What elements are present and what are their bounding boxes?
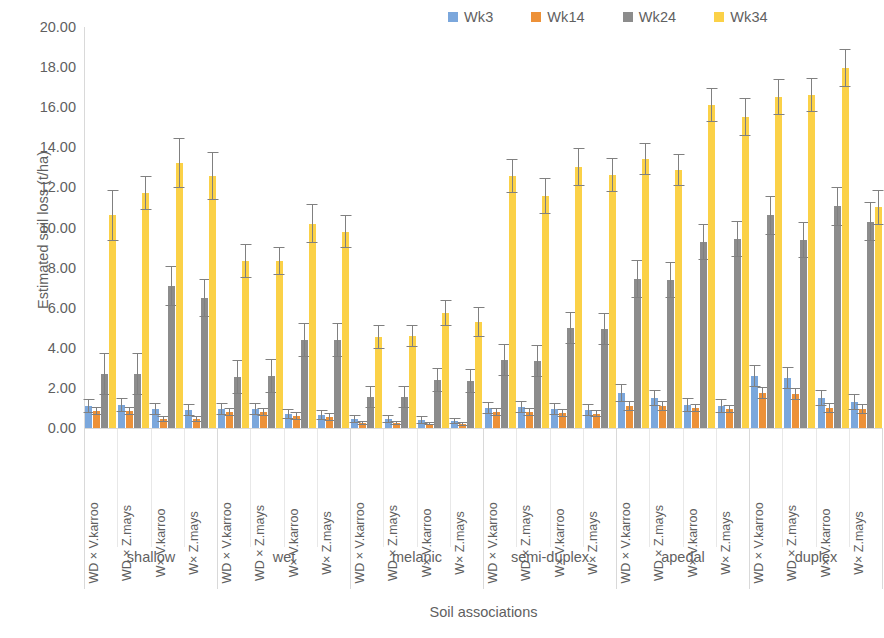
bar-wk34[interactable] [609,175,616,428]
bar-wk34[interactable] [342,232,349,428]
bar-wk34[interactable] [142,193,149,428]
bar-wk24[interactable] [734,239,741,428]
bar-wk3[interactable] [285,414,292,428]
bar-wk14[interactable] [792,394,799,428]
bar-wk24[interactable] [700,242,707,428]
bar-wk3[interactable] [318,415,325,428]
bar-wk3[interactable] [684,405,691,428]
bar-wk3[interactable] [618,393,625,428]
bar-wk34[interactable] [875,207,882,428]
bar-wk24[interactable] [367,397,374,428]
bar-wk3[interactable] [751,376,758,428]
bar-wk14[interactable] [359,423,366,428]
bar-wk3[interactable] [451,421,458,428]
bar-wk14[interactable] [193,419,200,428]
bar-wk3[interactable] [152,409,159,428]
bar-wk3[interactable] [85,406,92,428]
bar-wk3[interactable] [185,410,192,428]
bar-wk24[interactable] [601,329,608,428]
bar-wk24[interactable] [834,206,841,428]
legend-item-wk24[interactable]: Wk24 [623,9,676,25]
bar-wk34[interactable] [642,159,649,428]
bar-wk34[interactable] [309,224,316,429]
bar-wk34[interactable] [409,336,416,428]
bar-wk24[interactable] [101,374,108,428]
bar-wk34[interactable] [575,167,582,428]
bar-wk24[interactable] [501,360,508,428]
bar-wk14[interactable] [293,416,300,428]
bar-wk24[interactable] [467,381,474,428]
bar-wk24[interactable] [268,376,275,428]
bar-wk24[interactable] [767,215,774,428]
bar-wk14[interactable] [126,411,133,428]
bar-wk14[interactable] [593,414,600,428]
bar-wk14[interactable] [426,424,433,428]
bar-wk3[interactable] [518,407,525,428]
bar-wk14[interactable] [93,411,100,428]
bar-wk3[interactable] [485,408,492,428]
bar-wk24[interactable] [134,374,141,428]
bar-wk3[interactable] [718,406,725,428]
bar-wk24[interactable] [334,340,341,428]
bar-wk24[interactable] [168,286,175,428]
bar-wk14[interactable] [659,406,666,428]
bar-wk34[interactable] [542,196,549,428]
bar-wk3[interactable] [418,420,425,428]
bar-wk3[interactable] [385,419,392,428]
bar-wk14[interactable] [459,424,466,428]
bar-wk3[interactable] [851,402,858,428]
bar-wk3[interactable] [551,409,558,428]
bar-wk14[interactable] [260,412,267,428]
bar-wk24[interactable] [800,240,807,428]
bar-wk34[interactable] [675,170,682,428]
bar-wk24[interactable] [667,280,674,428]
bar-wk34[interactable] [742,117,749,428]
bar-wk34[interactable] [176,163,183,428]
bar-wk14[interactable] [559,413,566,428]
bar-wk34[interactable] [775,97,782,428]
legend-item-wk14[interactable]: Wk14 [531,9,584,25]
bar-wk34[interactable] [242,261,249,428]
bar-wk14[interactable] [226,412,233,428]
bar-wk3[interactable] [784,378,791,428]
bar-wk24[interactable] [634,279,641,428]
bar-wk14[interactable] [859,409,866,428]
bar-wk3[interactable] [651,398,658,428]
bar-wk34[interactable] [442,313,449,428]
bar-wk34[interactable] [842,68,849,428]
bar-wk34[interactable] [209,176,216,428]
bar-wk24[interactable] [234,377,241,428]
bar-wk34[interactable] [708,105,715,428]
bar-wk34[interactable] [109,215,116,428]
bar-wk14[interactable] [393,423,400,428]
bar-wk24[interactable] [867,222,874,429]
bar-wk34[interactable] [276,261,283,428]
bar-wk3[interactable] [218,409,225,428]
bar-wk34[interactable] [509,176,516,428]
bar-wk34[interactable] [375,337,382,428]
bar-wk3[interactable] [252,409,259,428]
legend-item-wk3[interactable]: Wk3 [448,9,493,25]
bar-wk24[interactable] [301,340,308,428]
bar-wk14[interactable] [160,419,167,428]
bar-wk14[interactable] [759,393,766,428]
bar-wk24[interactable] [201,298,208,428]
bar-wk3[interactable] [118,405,125,428]
bar-wk3[interactable] [351,419,358,428]
legend-item-wk34[interactable]: Wk34 [714,9,767,25]
bar-wk3[interactable] [818,398,825,428]
bar-wk24[interactable] [434,380,441,428]
bar-wk14[interactable] [826,408,833,428]
bar-wk14[interactable] [526,412,533,428]
bar-wk14[interactable] [326,417,333,428]
bar-wk34[interactable] [808,95,815,428]
bar-wk24[interactable] [534,361,541,428]
bar-wk24[interactable] [567,328,574,428]
bar-wk14[interactable] [726,409,733,428]
bar-wk3[interactable] [585,410,592,428]
bar-wk14[interactable] [626,406,633,428]
bar-wk24[interactable] [401,397,408,428]
bar-wk14[interactable] [692,408,699,428]
bar-wk14[interactable] [493,412,500,428]
bar-wk34[interactable] [475,322,482,428]
